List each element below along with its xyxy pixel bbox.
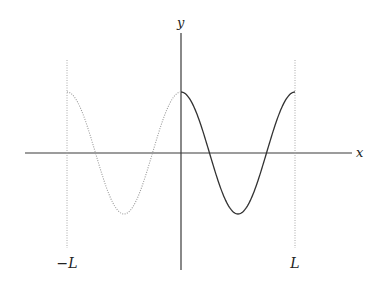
x-axis-label: x bbox=[356, 145, 364, 160]
function-plot: x y −L L bbox=[0, 0, 376, 288]
y-axis-label: y bbox=[176, 15, 185, 30]
L-label: L bbox=[289, 255, 299, 271]
minus-L-label: −L bbox=[56, 255, 77, 271]
